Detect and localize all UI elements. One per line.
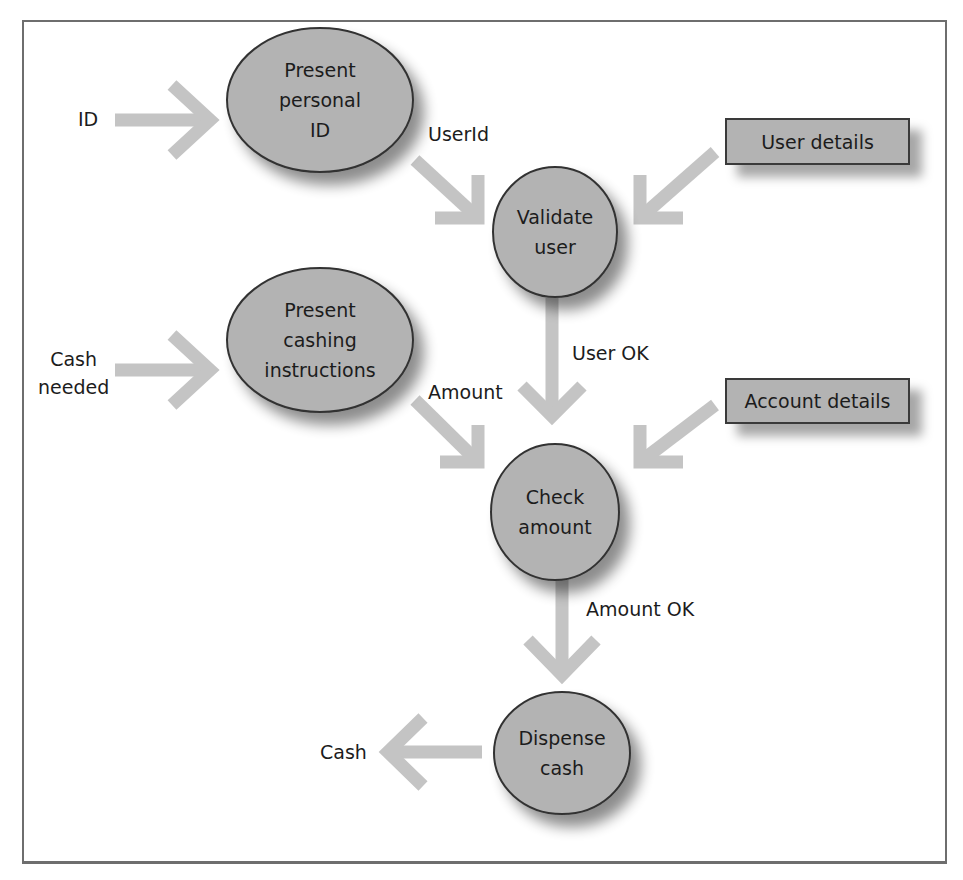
flow-arrow-cash-out: [388, 718, 482, 786]
data-store-label: User details: [761, 131, 874, 153]
external-input-id: ID: [78, 107, 98, 131]
external-input-line: needed: [38, 373, 109, 401]
flow-arrow-amount-ok: [528, 580, 596, 675]
process-label-check-amount: Check amount: [491, 444, 619, 580]
process-label-line: Dispense: [518, 723, 605, 753]
process-label-present-personal-id: Present personal ID: [227, 28, 413, 172]
process-label-line: user: [517, 232, 594, 262]
process-label-line: instructions: [264, 355, 375, 385]
process-label-line: Present: [279, 55, 361, 85]
process-label-validate-user: Validate user: [493, 167, 617, 297]
flow-arrow-id-to-present-id: [115, 85, 210, 155]
process-label-line: cashing: [264, 325, 375, 355]
process-label-line: Validate: [517, 202, 594, 232]
data-store-account-details[interactable]: Account details: [725, 378, 910, 424]
process-label-line: personal: [279, 85, 361, 115]
data-store-user-details[interactable]: User details: [725, 118, 910, 165]
flow-label-amount: Amount: [428, 380, 503, 404]
flow-arrow-amount: [415, 400, 478, 462]
flow-arrow-userid: [415, 160, 478, 218]
flow-arrow-cash-needed: [115, 335, 210, 405]
process-label-line: Present: [264, 295, 375, 325]
process-label-line: ID: [279, 115, 361, 145]
flow-label-userid: UserId: [428, 122, 489, 146]
flow-label-amount-ok: Amount OK: [586, 597, 694, 621]
flow-arrow-user-details: [640, 152, 715, 218]
process-label-dispense-cash: Dispense cash: [494, 692, 630, 814]
external-output-cash: Cash: [320, 740, 367, 764]
flow-label-user-ok: User OK: [572, 341, 649, 365]
data-store-label: Account details: [744, 390, 890, 412]
process-label-line: cash: [518, 753, 605, 783]
process-label-line: amount: [518, 512, 591, 542]
external-input-line: Cash: [38, 345, 109, 373]
process-label-line: Check: [518, 482, 591, 512]
process-label-present-cashing-instructions: Present cashing instructions: [227, 268, 413, 412]
flow-arrow-account-details: [640, 405, 715, 462]
external-input-cash-needed: Cash needed: [38, 345, 109, 401]
